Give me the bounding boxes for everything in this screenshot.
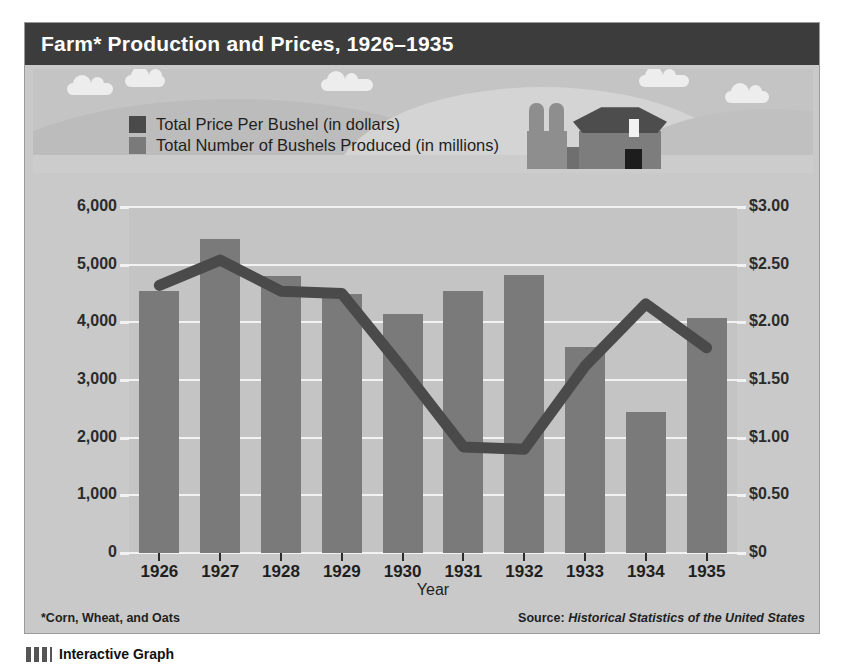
y-axis-left-tick: 3,000 <box>33 370 117 388</box>
x-axis-label-1928: 1928 <box>251 562 312 582</box>
y-axis-right-tickmark <box>737 552 746 555</box>
plot-area: 6,0005,0004,0003,0002,0001,0000 $3.00$2.… <box>33 173 813 593</box>
plot-canvas <box>129 207 737 553</box>
film-strip-icon <box>26 647 52 662</box>
barn-door <box>625 149 642 169</box>
x-axis-tickmark <box>341 553 343 561</box>
x-axis-tickmark <box>280 553 282 561</box>
interactive-graph-caption[interactable]: Interactive Graph <box>26 646 174 662</box>
source-note: Source: Historical Statistics of the Uni… <box>518 611 805 625</box>
chart-figure: Farm* Production and Prices, 1926–1935 <box>24 22 820 634</box>
price-line <box>159 260 706 449</box>
y-axis-left-tickmark <box>120 321 129 324</box>
legend-label: Total Number of Bushels Produced (in mil… <box>156 136 499 155</box>
legend-swatch-icon <box>129 137 146 154</box>
x-axis-label-1933: 1933 <box>555 562 616 582</box>
source-title: Historical Statistics of the United Stat… <box>568 611 805 625</box>
barn-window <box>629 119 639 137</box>
silo-icon <box>529 103 544 169</box>
x-axis-title: Year <box>129 581 737 599</box>
y-axis-right-tickmark <box>737 264 746 267</box>
cloud-icon <box>725 91 769 103</box>
caption-label: Interactive Graph <box>59 646 174 662</box>
y-axis-left-tick: 5,000 <box>33 255 117 273</box>
source-prefix: Source: <box>518 611 565 625</box>
chart-title-bar: Farm* Production and Prices, 1926–1935 <box>25 23 820 65</box>
cloud-icon <box>67 83 113 95</box>
x-axis-tickmark <box>462 553 464 561</box>
chart-legend: Total Price Per Bushel (in dollars) Tota… <box>129 115 499 157</box>
x-axis-label-1932: 1932 <box>494 562 555 582</box>
y-axis-right-tickmark <box>737 321 746 324</box>
x-axis-label-1935: 1935 <box>676 562 737 582</box>
cloud-icon <box>639 75 689 87</box>
x-axis-tickmark <box>523 553 525 561</box>
x-axis-label-1926: 1926 <box>129 562 190 582</box>
ground-shape <box>33 155 813 173</box>
x-axis-tickmark <box>219 553 221 561</box>
barn-icon <box>579 131 661 169</box>
x-axis-label-1934: 1934 <box>615 562 676 582</box>
y-axis-left-tickmark <box>120 494 129 497</box>
x-axis-label-1930: 1930 <box>372 562 433 582</box>
y-axis-right-tick: $2.50 <box>749 255 820 273</box>
x-axis-label-1927: 1927 <box>190 562 251 582</box>
y-axis-left-tickmark <box>120 552 129 555</box>
page-title: Farm* Production and Prices, 1926–1935 <box>41 32 454 56</box>
y-axis-left-tick: 6,000 <box>33 197 117 215</box>
x-axis-tickmark <box>645 553 647 561</box>
y-axis-right-tick: $1.50 <box>749 370 820 388</box>
y-axis-left-tickmark <box>120 379 129 382</box>
footnote: *Corn, Wheat, and Oats <box>41 611 180 625</box>
y-axis-left-tick: 4,000 <box>33 312 117 330</box>
chart-screenshot: Farm* Production and Prices, 1926–1935 <box>0 0 845 666</box>
x-axis-labels: 1926192719281929193019311932193319341935 <box>129 559 737 583</box>
legend-item-price: Total Price Per Bushel (in dollars) <box>129 115 499 134</box>
x-axis-tickmark <box>706 553 708 561</box>
y-axis-right-tick: $3.00 <box>749 197 820 215</box>
y-axis-right-tick: $1.00 <box>749 428 820 446</box>
line-series <box>129 207 737 553</box>
y-axis-right-tickmark <box>737 379 746 382</box>
legend-item-bushels: Total Number of Bushels Produced (in mil… <box>129 136 499 155</box>
y-axis-left-tickmark <box>120 206 129 209</box>
legend-label: Total Price Per Bushel (in dollars) <box>156 115 400 134</box>
y-axis-left-tick: 0 <box>33 543 117 561</box>
y-axis-left-tickmark <box>120 437 129 440</box>
y-axis-right-tick: $2.00 <box>749 312 820 330</box>
x-axis-tickmark <box>584 553 586 561</box>
cloud-icon <box>321 79 373 91</box>
y-axis-right-tick: $0 <box>749 543 820 561</box>
y-axis-right-tickmark <box>737 437 746 440</box>
x-axis-tickmark <box>158 553 160 561</box>
y-axis-left-tick: 2,000 <box>33 428 117 446</box>
x-axis-tickmark <box>402 553 404 561</box>
cloud-icon <box>125 75 165 87</box>
y-axis-right-tickmark <box>737 206 746 209</box>
y-axis-right-tick: $0.50 <box>749 485 820 503</box>
y-axis-left-tick: 1,000 <box>33 485 117 503</box>
x-axis-label-1931: 1931 <box>433 562 494 582</box>
y-axis-right-tickmark <box>737 494 746 497</box>
silo-icon <box>549 103 564 169</box>
legend-swatch-icon <box>129 116 146 133</box>
y-axis-left-tickmark <box>120 264 129 267</box>
x-axis-label-1929: 1929 <box>311 562 372 582</box>
